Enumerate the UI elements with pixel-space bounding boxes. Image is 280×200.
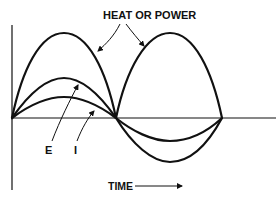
current-curve (12, 97, 222, 141)
power-curve (12, 33, 222, 118)
heat-or-power-label: HEAT OR POWER (103, 9, 196, 21)
voltage-label: E (45, 144, 52, 156)
current-leader (77, 111, 94, 141)
current-label: I (74, 144, 77, 156)
voltage-leader (52, 85, 78, 141)
power-leader-right (126, 24, 144, 46)
time-axis-label: TIME (108, 180, 133, 192)
ac-power-diagram: HEAT OR POWER E I TIME (0, 0, 280, 200)
power-leader-left (98, 24, 120, 51)
